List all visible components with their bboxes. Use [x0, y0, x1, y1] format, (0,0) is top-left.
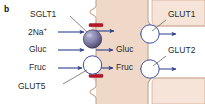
transporter-glut5[interactable]	[83, 56, 101, 74]
glut2-circle	[141, 60, 159, 78]
transport-diagram-figure: b SGLT1 2Na+ Gluc Fruc GLUT5 Gluc Fruc G…	[0, 0, 205, 104]
apical-influx-arrows	[58, 32, 84, 68]
transporter-sglt1[interactable]	[83, 30, 101, 48]
microvilli-bottom	[90, 82, 96, 104]
label-fructose-cytoplasm: Fruc	[116, 63, 133, 72]
leader-glut5	[63, 70, 87, 84]
label-glucose-apical: Gluc	[29, 45, 46, 54]
label-glut5: GLUT5	[18, 82, 45, 91]
label-sodium: 2Na+	[28, 27, 47, 37]
sglt1-sphere	[83, 30, 101, 48]
adjacent-cell-lower-right	[152, 78, 205, 104]
label-sodium-charge: +	[44, 26, 48, 32]
sglt1-highlight	[87, 33, 92, 37]
transporter-glut2[interactable]	[141, 60, 159, 78]
label-fructose-apical: Fruc	[29, 63, 46, 72]
basolateral-membrane	[148, 0, 152, 104]
label-glut2: GLUT2	[168, 46, 195, 55]
leader-sglt1	[70, 16, 87, 32]
tight-junction-bottom	[89, 74, 103, 77]
glut5-circle	[83, 56, 101, 74]
microvilli-top	[90, 0, 96, 22]
label-sodium-text: 2Na	[28, 27, 44, 37]
label-glucose-cytoplasm: Gluc	[116, 45, 133, 54]
tight-junction-top	[89, 24, 103, 27]
label-sglt1: SGLT1	[30, 10, 56, 19]
label-glut1: GLUT1	[168, 10, 195, 19]
panel-letter: b	[4, 5, 9, 14]
